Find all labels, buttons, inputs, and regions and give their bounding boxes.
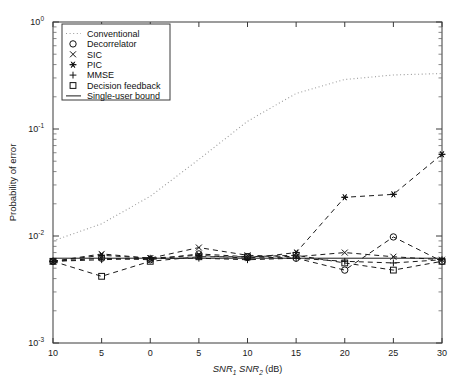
y-axis-title: Probability of error xyxy=(7,144,18,222)
x-tick-label: 10 xyxy=(48,348,58,358)
legend-label-0: Conventional xyxy=(87,29,140,39)
x-tick-label: 5 xyxy=(196,348,201,358)
chart-figure: 10505101520253010010-110-210-3SNR1 SNR2 … xyxy=(0,0,464,387)
x-tick-label: 5 xyxy=(99,348,104,358)
x-tick-label: 20 xyxy=(340,348,350,358)
x-tick-label: 25 xyxy=(388,348,398,358)
series-line-pic xyxy=(53,154,442,261)
marker-decorrelator xyxy=(342,267,348,273)
y-tick-label: 10-3 xyxy=(28,336,44,348)
x-tick-label: 30 xyxy=(437,348,447,358)
y-tick-label: 10-2 xyxy=(28,229,44,241)
y-tick-label: 10-1 xyxy=(28,122,44,134)
legend-label-2: SIC xyxy=(87,50,103,60)
x-tick-label: 0 xyxy=(148,348,153,358)
x-tick-label: 10 xyxy=(242,348,252,358)
marker-decision-feedback xyxy=(99,273,105,279)
x-tick-label: 15 xyxy=(291,348,301,358)
legend-label-6: Single-user bound xyxy=(87,91,160,101)
x-axis-title: SNR1 SNR2 (dB) xyxy=(213,363,283,376)
legend-label-3: PIC xyxy=(87,60,103,70)
legend-label-5: Decision feedback xyxy=(87,81,161,91)
y-tick-label: 100 xyxy=(30,15,44,27)
legend-label-4: MMSE xyxy=(87,70,114,80)
chart-canvas: 10505101520253010010-110-210-3SNR1 SNR2 … xyxy=(0,0,464,387)
legend-label-1: Decorrelator xyxy=(87,39,137,49)
